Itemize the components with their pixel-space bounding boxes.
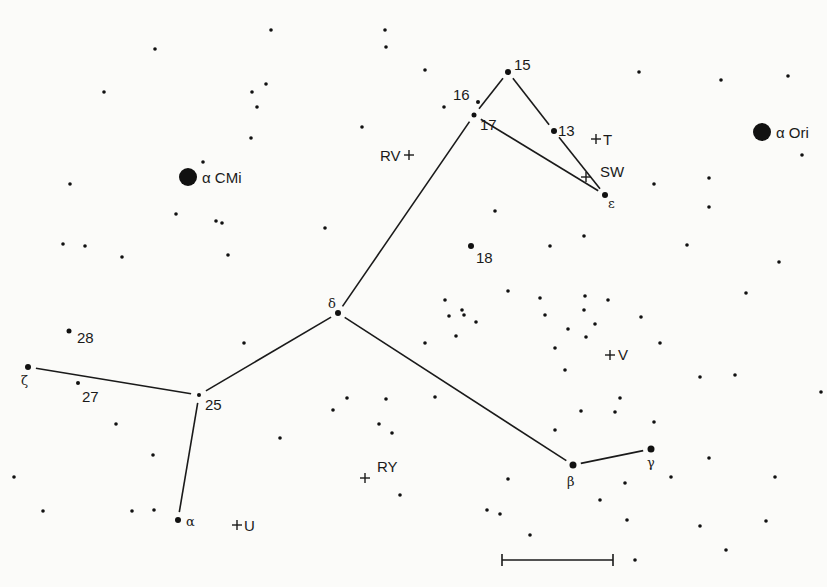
- star-label-alpha-Ori: α Ori: [776, 124, 809, 141]
- field-star: [433, 395, 437, 399]
- constellation-line-25-alpha: [179, 403, 197, 512]
- field-star: [613, 410, 617, 414]
- field-star: [707, 176, 711, 180]
- field-star: [764, 519, 768, 523]
- star-label-zeta: ζ: [21, 373, 28, 388]
- star-alpha-CMi: [179, 168, 197, 186]
- star-alpha-Ori: [753, 123, 771, 141]
- variable-star-V: V: [605, 346, 628, 363]
- field-star: [41, 509, 45, 513]
- variable-star-T: T: [591, 131, 612, 148]
- field-star: [384, 397, 388, 401]
- field-star: [582, 308, 586, 312]
- star-label-27: 27: [82, 388, 99, 405]
- star-zeta: [25, 364, 31, 370]
- field-star: [598, 498, 602, 502]
- field-star: [377, 422, 381, 426]
- field-star: [278, 436, 282, 440]
- field-star: [553, 346, 557, 350]
- star-alpha: [175, 517, 181, 523]
- star-label-alpha: α: [186, 514, 195, 529]
- field-star: [201, 160, 205, 164]
- constellation-lines: [36, 78, 643, 512]
- field-star: [548, 244, 552, 248]
- field-star: [707, 456, 711, 460]
- field-star: [637, 70, 641, 74]
- star-13: [551, 128, 557, 134]
- field-star: [566, 327, 570, 331]
- field-star: [707, 205, 711, 209]
- field-star: [249, 136, 253, 140]
- field-star: [390, 431, 394, 435]
- field-stars: [12, 28, 823, 562]
- constellation-line-delta-25: [206, 317, 331, 391]
- field-star: [226, 253, 230, 257]
- variable-label-V: V: [618, 346, 628, 363]
- star-label-epsilon: ε: [608, 196, 615, 211]
- star-delta: [335, 310, 341, 316]
- constellation-line-15-17: [479, 78, 503, 108]
- field-star: [724, 548, 728, 552]
- field-star: [250, 90, 254, 94]
- star-16: [476, 100, 480, 104]
- field-star: [345, 396, 349, 400]
- field-star: [360, 125, 364, 129]
- star-label-delta: δ: [328, 296, 336, 311]
- field-star: [593, 322, 597, 326]
- star-15: [505, 69, 511, 75]
- field-star: [506, 477, 510, 481]
- variable-label-T: T: [603, 131, 612, 148]
- constellation-line-beta-gamma: [581, 451, 643, 464]
- variable-star-RY: RY: [360, 458, 398, 483]
- star-label-18: 18: [476, 249, 493, 266]
- field-star: [68, 182, 72, 186]
- field-star: [685, 243, 689, 247]
- star-label-alpha-CMi: α CMi: [202, 169, 242, 186]
- field-star: [153, 47, 157, 51]
- star-beta: [570, 462, 577, 469]
- field-star: [669, 475, 673, 479]
- field-star: [506, 289, 510, 293]
- field-star: [12, 475, 16, 479]
- constellation-line-15-13: [513, 78, 549, 124]
- variable-star-RV: RV: [380, 147, 414, 164]
- field-star: [583, 294, 587, 298]
- constellation-line-17-epsilon: [481, 119, 598, 191]
- field-star: [214, 219, 218, 223]
- variable-label-RY: RY: [377, 458, 398, 475]
- star-28: [67, 329, 72, 334]
- constellation-line-17-delta: [343, 122, 470, 307]
- star-label-28: 28: [77, 329, 94, 346]
- star-27: [76, 381, 80, 385]
- field-star: [454, 334, 458, 338]
- field-star: [633, 558, 637, 562]
- field-star: [83, 244, 87, 248]
- field-star: [485, 508, 489, 512]
- constellation-line-delta-beta: [345, 317, 567, 460]
- field-star: [442, 105, 446, 109]
- star-label-15: 15: [514, 56, 531, 73]
- star-17: [472, 113, 477, 118]
- star-gamma: [648, 446, 655, 453]
- field-star: [398, 493, 402, 497]
- star-18: [468, 243, 474, 249]
- field-star: [623, 481, 627, 485]
- field-star: [584, 335, 588, 339]
- variable-label-RV: RV: [380, 147, 401, 164]
- field-star: [744, 291, 748, 295]
- field-star: [331, 408, 335, 412]
- field-star: [174, 212, 178, 216]
- field-star: [733, 373, 737, 377]
- constellation-line-13-epsilon: [559, 137, 600, 188]
- field-star: [698, 524, 702, 528]
- star-25: [197, 393, 201, 397]
- field-star: [652, 182, 656, 186]
- field-star: [255, 105, 259, 109]
- field-star: [582, 234, 586, 238]
- field-star: [130, 509, 134, 513]
- variable-star-U: U: [232, 517, 255, 534]
- field-star: [460, 308, 464, 312]
- field-star: [498, 512, 502, 516]
- field-star: [639, 315, 643, 319]
- field-star: [264, 82, 268, 86]
